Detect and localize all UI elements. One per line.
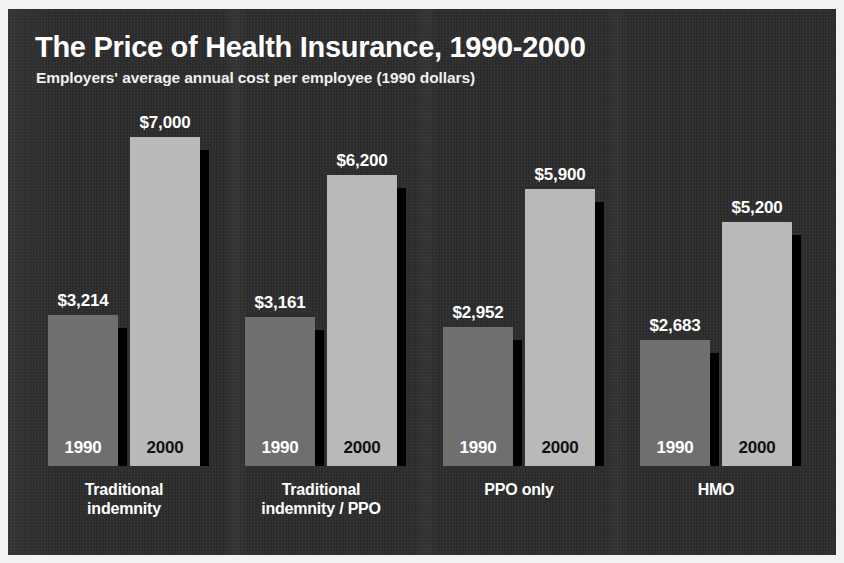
bar-shadow (397, 188, 406, 466)
bar-year-label: 2000 (327, 438, 397, 458)
bar-2000[interactable] (525, 189, 595, 466)
bar-value-label: $2,683 (622, 316, 728, 336)
bar-2000[interactable] (130, 137, 200, 466)
bar-year-label: 2000 (722, 438, 792, 458)
bar-value-label: $3,214 (30, 291, 136, 311)
bar-value-label: $6,200 (309, 151, 415, 171)
group-category-label: HMO (600, 480, 832, 499)
bar-shadow (792, 235, 801, 466)
bar-shadow (595, 202, 604, 466)
bar-value-label: $7,000 (112, 113, 218, 133)
bar-2000[interactable] (327, 175, 397, 466)
bar-year-label: 1990 (48, 438, 118, 458)
bar-value-label: $3,161 (227, 293, 333, 313)
bar-chart-plot: $3,2141990$7,0002000Traditional indemnit… (8, 9, 836, 555)
bar-year-label: 2000 (525, 438, 595, 458)
chart-subtitle: Employers' average annual cost per emplo… (36, 69, 475, 87)
bar-shadow (710, 353, 719, 466)
bar-year-label: 2000 (130, 438, 200, 458)
bar-shadow (315, 330, 324, 466)
bar-value-label: $5,900 (507, 165, 613, 185)
chart-poster: The Price of Health Insurance, 1990-2000… (0, 0, 844, 563)
bar-shadow (513, 340, 522, 466)
bar-year-label: 1990 (443, 438, 513, 458)
page-title: The Price of Health Insurance, 1990-2000 (35, 31, 586, 64)
bar-year-label: 1990 (640, 438, 710, 458)
bar-shadow (200, 150, 209, 466)
bar-value-label: $5,200 (704, 198, 810, 218)
chart-panel: The Price of Health Insurance, 1990-2000… (8, 9, 836, 555)
bar-shadow (118, 328, 127, 466)
bar-year-label: 1990 (245, 438, 315, 458)
bar-value-label: $2,952 (425, 303, 531, 323)
bar-2000[interactable] (722, 222, 792, 466)
